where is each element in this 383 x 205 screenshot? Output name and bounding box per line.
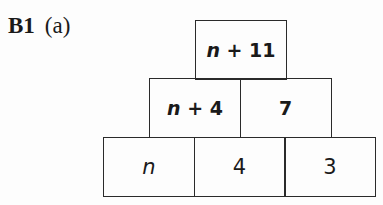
pyramid-cell-top: n + 11 — [195, 20, 287, 80]
cell-variable: n — [167, 97, 181, 119]
pyramid-cell-middle-right: 7 — [240, 78, 332, 138]
cell-value: + 4 — [181, 97, 223, 119]
cell-value: 3 — [323, 155, 336, 179]
cell-value: 4 — [233, 155, 246, 179]
question-label: B1(a) — [8, 13, 70, 39]
cell-value: 7 — [279, 97, 292, 119]
pyramid-cell-bottom-middle: 4 — [194, 137, 286, 197]
question-number: B1 — [8, 13, 35, 38]
cell-value: + 11 — [220, 39, 276, 61]
question-part: (a) — [45, 13, 71, 38]
cell-variable: n — [142, 155, 155, 179]
pyramid-cell-middle-left: n + 4 — [149, 78, 241, 138]
pyramid-cell-bottom-left: n — [103, 137, 195, 197]
cell-variable: n — [206, 39, 220, 61]
pyramid-cell-bottom-right: 3 — [284, 137, 376, 197]
